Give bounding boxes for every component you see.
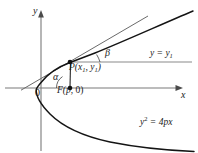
point-p-suffix: ) <box>98 62 101 72</box>
angle-alpha-label: α <box>53 72 58 82</box>
x-axis-label: x <box>181 90 185 100</box>
parabola-equation-label: y2 = 4px <box>140 118 172 128</box>
focus-f-suffix: , 0) <box>71 85 84 95</box>
point-p-prefix: P(x <box>69 62 82 72</box>
focus-f-prefix: F(p <box>57 85 71 95</box>
horizontal-line-sub: 1 <box>170 52 173 59</box>
tangent-line <box>21 16 148 90</box>
point-p-sub2: 1 <box>94 66 97 73</box>
horizontal-line-label: y = y1 <box>150 49 173 59</box>
x-axis <box>5 85 183 91</box>
angle-arc-beta <box>97 55 100 63</box>
point-p-sub1: 1 <box>82 66 85 73</box>
parabola-figure: y x 0 α β P(x1, y1) F(p, 0) y = y1 y2 = … <box>0 0 198 153</box>
parabola-curve <box>36 11 194 152</box>
figure-canvas <box>0 0 198 153</box>
focus-f-label: F(p, 0) <box>57 86 83 96</box>
parabola-eq-exponent: 2 <box>144 115 147 122</box>
angle-beta-label: β <box>105 48 110 58</box>
horizontal-line-prefix: y = y <box>150 48 170 58</box>
point-p-label: P(x1, y1) <box>69 63 101 73</box>
parabola-eq-rest: = 4px <box>147 117 172 127</box>
y-axis-label: y <box>33 6 37 16</box>
origin-label: 0 <box>35 88 40 98</box>
